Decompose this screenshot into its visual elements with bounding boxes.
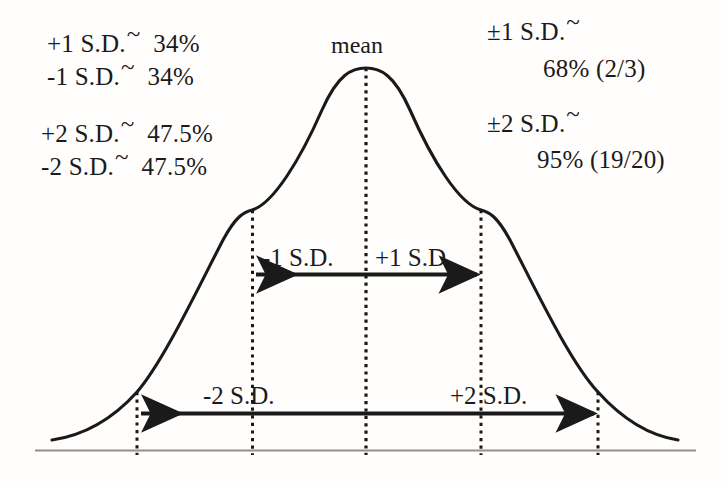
stat-line-plusminus-1-sd: ±1 S.D.~: [487, 19, 580, 44]
stat-prefix: +1 S.D.: [47, 30, 126, 57]
stat-prefix: +2 S.D.: [41, 120, 120, 147]
stat-line-minus-2-sd: -2 S.D.~ 47.5%: [41, 154, 207, 179]
stat-prefix: -2 S.D.: [41, 153, 114, 180]
span-label-plus-2-sd: +2 S.D.: [450, 383, 527, 408]
span-label-minus-1-sd: -1 S.D.: [262, 245, 334, 270]
stat-line-plusminus-2-sd: ±2 S.D.~: [487, 111, 580, 136]
stat-value-plusminus-1-sd: 68% (2/3): [543, 56, 645, 81]
stat-line-minus-1-sd: -1 S.D.~ 34%: [47, 64, 194, 89]
stat-value: 68% (2/3): [543, 55, 645, 82]
stat-value: 95% (19/20): [537, 146, 665, 173]
stat-value: 47.5%: [147, 120, 213, 147]
mean-label: mean: [331, 33, 383, 57]
normal-distribution-figure: +1 S.D.~ 34% -1 S.D.~ 34% +2 S.D.~ 47.5%…: [0, 0, 725, 487]
stat-value: 34%: [148, 63, 194, 90]
stat-prefix: ±1 S.D.: [487, 18, 565, 45]
clipped-caption: [24, 476, 700, 487]
stat-value: 34%: [153, 30, 199, 57]
span-label-minus-2-sd: -2 S.D.: [203, 383, 275, 408]
stat-prefix: -1 S.D.: [47, 63, 120, 90]
stat-value-plusminus-2-sd: 95% (19/20): [537, 147, 665, 172]
span-label-plus-1-sd: +1 S.D.: [375, 245, 452, 270]
stat-value: 47.5%: [142, 153, 208, 180]
stat-prefix: ±2 S.D.: [487, 110, 565, 137]
